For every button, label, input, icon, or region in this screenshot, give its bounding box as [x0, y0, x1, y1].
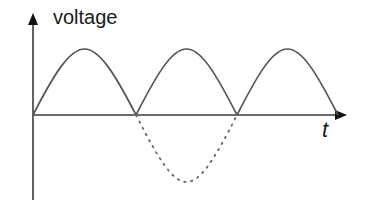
waveform-hump-3 — [237, 49, 338, 115]
waveform-dotted-negative-half — [136, 115, 237, 182]
waveform-hump-2 — [136, 49, 237, 115]
waveform-hump-1 — [33, 49, 136, 115]
y-axis-label: voltage — [53, 6, 118, 29]
y-axis-arrow-icon — [28, 13, 38, 25]
x-axis-label: t — [322, 117, 328, 143]
rectified-wave-diagram — [0, 0, 371, 205]
